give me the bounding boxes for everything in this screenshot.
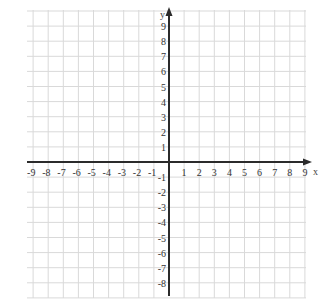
y-axis-label: y <box>160 9 165 20</box>
y-tick-label: 2 <box>161 127 166 138</box>
y-tick-label: 9 <box>161 21 166 32</box>
x-tick-label: 2 <box>197 167 202 178</box>
x-tick-label: 3 <box>212 167 217 178</box>
y-tick-label: -1 <box>158 172 166 183</box>
y-tick-label: -4 <box>158 217 166 228</box>
y-tick-label: -6 <box>158 248 166 259</box>
x-tick-label: 7 <box>272 167 277 178</box>
x-axis-label: x <box>313 166 318 177</box>
x-tick-label: 6 <box>257 167 262 178</box>
y-tick-label: -3 <box>158 202 166 213</box>
y-tick-labels: 987654321-1-2-3-4-5-6-7-8 <box>158 21 166 289</box>
y-tick-label: -8 <box>158 278 166 289</box>
x-tick-labels: -9-8-7-6-5-4-3-2-1123456789 <box>27 167 307 178</box>
y-tick-label: 8 <box>161 36 166 47</box>
y-tick-label: 3 <box>161 112 166 123</box>
y-tick-label: 1 <box>161 142 166 153</box>
x-axis-arrow-icon <box>303 159 312 166</box>
y-tick-label: 6 <box>161 66 166 77</box>
y-tick-label: -7 <box>158 263 166 274</box>
y-tick-label: -2 <box>158 187 166 198</box>
y-tick-label: 4 <box>161 97 166 108</box>
x-tick-label: -8 <box>42 167 50 178</box>
x-tick-label: -9 <box>27 167 35 178</box>
x-tick-label: 1 <box>182 167 187 178</box>
x-tick-label: 5 <box>242 167 247 178</box>
x-tick-label: -7 <box>57 167 65 178</box>
x-tick-label: 9 <box>302 167 307 178</box>
grid-lines <box>27 10 306 298</box>
x-tick-label: 4 <box>227 167 232 178</box>
coordinate-plane: -9-8-7-6-5-4-3-2-1123456789 987654321-1-… <box>0 0 326 307</box>
x-tick-label: -5 <box>88 167 96 178</box>
x-tick-label: 8 <box>287 167 292 178</box>
y-tick-label: 7 <box>161 51 166 62</box>
x-tick-label: -4 <box>103 167 111 178</box>
y-tick-label: -5 <box>158 233 166 244</box>
x-tick-label: -6 <box>72 167 80 178</box>
x-tick-label: -2 <box>133 167 141 178</box>
x-tick-label: -3 <box>118 167 126 178</box>
y-tick-label: 5 <box>161 82 166 93</box>
x-tick-label: -1 <box>148 167 156 178</box>
